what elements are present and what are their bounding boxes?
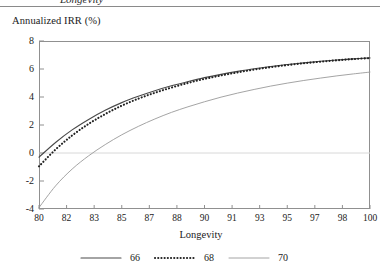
legend-item-70: 70 — [227, 252, 301, 263]
x-axis-ticks — [39, 205, 370, 209]
plot-area — [39, 41, 370, 209]
x-tick-label: 85 — [109, 213, 135, 223]
series-line-70 — [39, 72, 370, 208]
y-tick-label: 4 — [0, 92, 34, 102]
legend-sample-70 — [227, 253, 271, 263]
y-axis-ticks — [39, 41, 44, 209]
x-tick-label: 91 — [219, 213, 245, 223]
chart-figure: Longevity Annualized IRR (%) 86420-2-4 8… — [0, 0, 380, 276]
series-line-68 — [39, 58, 370, 166]
y-axis-title: Annualized IRR (%) — [12, 15, 101, 26]
x-tick-label: 97 — [302, 213, 328, 223]
legend-label-70: 70 — [271, 252, 301, 263]
y-tick-label: 0 — [0, 148, 34, 158]
clipped-header-text: Longevity — [60, 0, 103, 5]
legend-label-66: 66 — [123, 252, 153, 263]
legend-item-66: 66 — [79, 252, 153, 263]
x-tick-label: 93 — [247, 213, 273, 223]
header-rule — [0, 6, 380, 7]
chart-legend: 666870 — [0, 252, 380, 263]
legend-sample-68 — [153, 253, 197, 263]
x-tick-label: 80 — [26, 213, 52, 223]
series-lines — [39, 58, 370, 208]
y-tick-label: 2 — [0, 120, 34, 130]
legend-item-68: 68 — [153, 252, 227, 263]
legend-label-68: 68 — [197, 252, 227, 263]
x-tick-label: 90 — [192, 213, 218, 223]
x-tick-label: 82 — [54, 213, 80, 223]
x-axis-title: Longevity — [0, 229, 380, 240]
x-tick-label: 100 — [357, 213, 380, 223]
series-line-66 — [39, 58, 370, 157]
x-tick-label: 95 — [274, 213, 300, 223]
x-tick-label: 87 — [136, 213, 162, 223]
y-tick-label: -2 — [0, 176, 34, 186]
x-tick-label: 88 — [164, 213, 190, 223]
y-tick-label: 6 — [0, 64, 34, 74]
x-tick-label: 98 — [329, 213, 355, 223]
y-tick-label: 8 — [0, 36, 34, 46]
x-axis-title-text: Longevity — [157, 229, 222, 240]
x-tick-label: 83 — [81, 213, 107, 223]
legend-sample-66 — [79, 253, 123, 263]
